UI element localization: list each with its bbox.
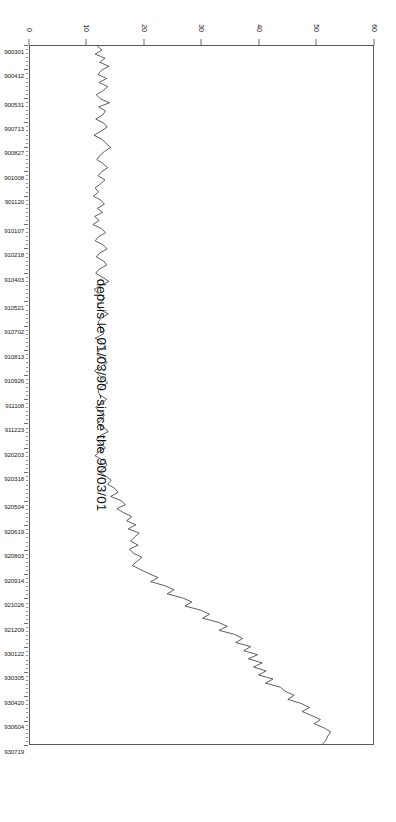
x-axis-minor-tick [26,680,28,681]
y-axis-tick-label: 60 [371,24,378,32]
x-axis-minor-tick [26,293,28,294]
x-axis-minor-tick [26,684,28,685]
x-axis-minor-tick [26,53,28,54]
x-axis-minor-tick [26,464,28,465]
x-axis-tick-label: 910813 [4,353,24,360]
x-axis-minor-tick [26,537,28,538]
x-axis-tick-label: 920318 [4,475,24,482]
x-axis-minor-tick [26,289,28,290]
y-axis-tick-mark [259,39,260,45]
x-axis-minor-tick [26,86,28,87]
x-axis-minor-tick [26,305,28,306]
x-axis-minor-tick [26,379,28,380]
data-series-line [93,46,331,744]
x-axis-minor-tick [26,578,28,579]
x-axis-minor-tick [26,61,28,62]
x-axis-minor-tick [26,232,28,233]
x-axis-tick-label: 920619 [4,528,24,535]
x-axis-minor-tick [26,493,28,494]
x-axis-minor-tick [26,529,28,530]
x-axis-minor-tick [26,444,28,445]
x-axis-tick-mark [24,672,28,673]
x-axis-minor-tick [26,269,28,270]
x-axis-tick-mark [24,623,28,624]
y-axis-tick-label: 30 [198,24,205,32]
x-axis-minor-tick [26,155,28,156]
x-axis-minor-tick [26,228,28,229]
x-axis-minor-tick [26,546,28,547]
x-axis-tick-label: 900301 [4,48,24,55]
x-axis-tick-label: 911223 [5,426,24,433]
x-axis-minor-tick [26,183,28,184]
x-axis-minor-tick [26,456,28,457]
x-axis-minor-tick [26,651,28,652]
x-axis-tick-label: 901008 [4,174,24,181]
x-axis-tick-label: 900827 [4,149,24,156]
x-axis-tick-label: 930719 [4,748,24,755]
x-axis-tick-mark [24,448,28,449]
x-axis-tick-mark [24,171,28,172]
x-axis-minor-tick [26,570,28,571]
x-axis-minor-tick [26,700,28,701]
x-axis-minor-tick [26,163,28,164]
x-axis-minor-tick [26,505,28,506]
x-axis-minor-tick [26,619,28,620]
x-axis-minor-tick [26,179,28,180]
x-axis-minor-tick [26,428,28,429]
x-axis-tick-mark [24,301,28,302]
x-axis-minor-tick [26,407,28,408]
x-axis-minor-tick [26,236,28,237]
x-axis-minor-tick [26,741,28,742]
x-axis-minor-tick [26,566,28,567]
x-axis-minor-tick [26,187,28,188]
x-axis-minor-tick [26,212,28,213]
x-axis-tick-label: 930420 [4,699,24,706]
x-axis-tick-mark [24,45,28,46]
x-axis-minor-tick [26,737,28,738]
x-axis-minor-tick [26,281,28,282]
x-axis-minor-tick [26,643,28,644]
x-axis-minor-tick [26,668,28,669]
x-axis-tick-label: 910926 [4,377,24,384]
x-axis-minor-tick [26,664,28,665]
x-axis-minor-tick [26,627,28,628]
x-axis-minor-tick [26,362,28,363]
x-axis-tick-label: 921026 [4,601,24,608]
x-axis-minor-tick [26,611,28,612]
y-axis-tick-mark [29,39,30,45]
chart-title: depuis le 01/03/90 -since the 90/03/01 [94,45,109,745]
x-axis-minor-tick [26,314,28,315]
x-axis-tick-label: 930122 [4,650,24,657]
x-axis-minor-tick [26,318,28,319]
x-axis-tick-label: 900412 [4,72,24,79]
x-axis-minor-tick [26,513,28,514]
x-axis-minor-tick [26,204,28,205]
x-axis-tick-label: 930305 [4,674,24,681]
x-axis-minor-tick [26,603,28,604]
x-axis-minor-tick [26,192,28,193]
x-axis-tick-mark [24,375,28,376]
x-axis-tick-label: 900531 [4,101,24,108]
y-axis: 0102030405060 [29,0,374,40]
x-axis-tick-mark [24,122,28,123]
x-axis-tick-mark [24,273,28,274]
x-axis-minor-tick [26,733,28,734]
x-axis-tick-mark [24,696,28,697]
x-axis-minor-tick [26,94,28,95]
x-axis-minor-tick [26,151,28,152]
x-axis-minor-tick [26,139,28,140]
x-axis-minor-tick [26,712,28,713]
x-axis-minor-tick [26,334,28,335]
x-axis-minor-tick [26,460,28,461]
x-axis-minor-tick [26,708,28,709]
x-axis-minor-tick [26,200,28,201]
x-axis-minor-tick [26,330,28,331]
x-axis-minor-tick [26,419,28,420]
x-axis-tick-label: 930604 [4,723,24,730]
x-axis-minor-tick [26,346,28,347]
x-axis-minor-tick [26,253,28,254]
x-axis-tick-label: 910218 [4,251,24,258]
x-axis-minor-tick [26,130,28,131]
x-axis-tick-mark [24,350,28,351]
x-axis-minor-tick [26,517,28,518]
